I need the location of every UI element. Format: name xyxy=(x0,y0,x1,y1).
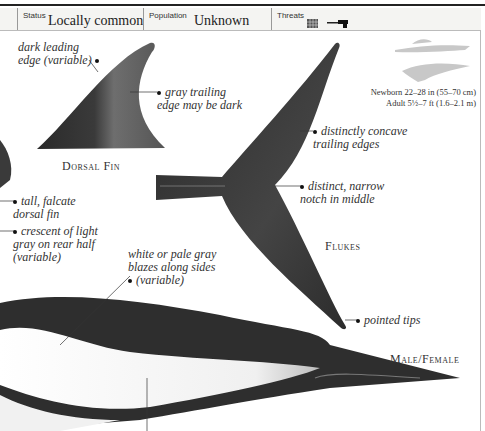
annotation-tall-falcate: tall, falcate dorsal fin xyxy=(13,195,76,221)
size-info: Newborn 22–28 in (55–70 cm) Adult 5½–7 f… xyxy=(360,87,476,109)
annotation-concave-trailing-edges: distinctly concave trailing edges xyxy=(313,125,407,151)
annotation-white-blazes: white or pale gray blazes along sides (v… xyxy=(128,248,216,287)
annotation-crescent-light-gray: crescent of light gray on rear half (var… xyxy=(13,225,98,264)
caption-male-female: Male/Female xyxy=(390,352,459,367)
annotation-narrow-notch: distinct, narrow notch in middle xyxy=(300,180,384,206)
caption-dorsal-fin: Dorsal Fin xyxy=(62,159,120,174)
adult-size: Adult 5½–7 ft (1.6–2.1 m) xyxy=(360,98,476,109)
annotation-pointed-tips: pointed tips xyxy=(356,314,420,327)
caption-flukes: Flukes xyxy=(325,239,360,254)
dolphin-silhouette-icon xyxy=(402,63,470,82)
partial-fin-drawing xyxy=(0,140,11,188)
human-swimmer-silhouette-icon xyxy=(395,39,470,52)
annotation-gray-trailing-edge: gray trailing edge may be dark xyxy=(157,86,242,112)
newborn-size: Newborn 22–28 in (55–70 cm) xyxy=(360,87,476,98)
annotation-dark-leading-edge: dark leading edge (variable) xyxy=(18,41,103,67)
